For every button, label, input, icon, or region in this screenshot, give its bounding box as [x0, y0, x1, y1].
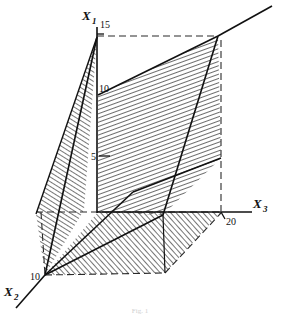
axis-label-x1: X: [81, 8, 91, 23]
axis-label-x3-subscript: 3: [262, 204, 268, 214]
x3-axis-tick-20: [221, 212, 225, 219]
axis-label-x2: X: [3, 284, 13, 299]
tick-label-x3-20: 20: [226, 216, 236, 227]
tick-label-x1-10: 10: [99, 83, 109, 94]
tick-label-x1-5: 5: [91, 151, 96, 162]
three-axis-plane-plot: X 1 X 2 X 3 15 10 5 10 20 Fig. 1: [0, 0, 281, 314]
figure-caption: Fig. 1: [132, 307, 149, 314]
axis-label-x3: X: [252, 196, 262, 211]
tick-label-x2-10: 10: [30, 271, 40, 282]
axis-label-x2-subscript: 2: [13, 292, 19, 302]
main-plane-region-hatch: [98, 36, 221, 215]
plane-ray-extension: [218, 6, 272, 36]
figure-container: X 1 X 2 X 3 15 10 5 10 20 Fig. 1: [0, 0, 281, 314]
axis-label-x1-subscript: 1: [92, 16, 97, 26]
tick-label-x1-15: 15: [100, 19, 110, 30]
